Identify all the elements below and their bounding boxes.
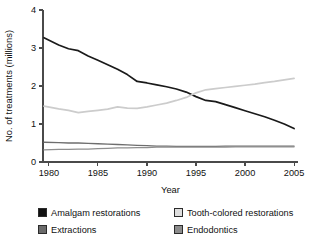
legend-row-1: Amalgam restorations Tooth-colored resto… <box>0 204 310 221</box>
x-tick-label: 2005 <box>284 168 304 178</box>
y-axis: 01234 <box>31 5 43 167</box>
series-line-endodontics <box>44 147 294 150</box>
x-axis: 198019851990199520002005 <box>39 162 305 178</box>
legend-swatch-icon-amalgam <box>38 208 47 217</box>
x-tick-label: 1985 <box>88 168 108 178</box>
legend-item-extractions: Extractions <box>38 221 174 238</box>
x-tick-label: 1990 <box>137 168 157 178</box>
y-tick-label: 1 <box>31 119 36 129</box>
line-chart-plot: 01234 198019851990199520002005 No. of tr… <box>0 0 310 200</box>
chart-figure: 01234 198019851990199520002005 No. of tr… <box>0 0 310 244</box>
legend-swatch-icon-tooth-colored <box>174 208 183 217</box>
y-axis-title: No. of treatments (millions) <box>3 30 14 142</box>
x-axis-title: Year <box>161 184 180 195</box>
y-tick-label: 4 <box>31 5 36 15</box>
legend-item-amalgam-restorations: Amalgam restorations <box>38 204 174 221</box>
legend-row-2: Extractions Endodontics <box>0 221 310 238</box>
legend-label-tooth-colored: Tooth-colored restorations <box>187 208 293 218</box>
legend-label-extractions: Extractions <box>51 225 96 235</box>
legend-item-endodontics: Endodontics <box>174 221 310 238</box>
legend-swatch-icon-endodontics <box>174 225 183 234</box>
chart-legend: Amalgam restorations Tooth-colored resto… <box>0 204 310 244</box>
x-tick-label: 1995 <box>186 168 206 178</box>
legend-swatch-icon-extractions <box>38 225 47 234</box>
y-tick-label: 2 <box>31 81 36 91</box>
series-line-extractions <box>44 142 294 146</box>
y-tick-label: 0 <box>31 157 36 167</box>
y-tick-label: 3 <box>31 43 36 53</box>
series-lines <box>44 38 294 150</box>
series-line-tooth-colored-restorations <box>44 78 294 112</box>
legend-label-amalgam: Amalgam restorations <box>51 208 140 218</box>
legend-label-endodontics: Endodontics <box>187 225 238 235</box>
x-tick-label: 2000 <box>235 168 255 178</box>
x-tick-label: 1980 <box>39 168 59 178</box>
legend-item-tooth-colored-restorations: Tooth-colored restorations <box>174 204 310 221</box>
